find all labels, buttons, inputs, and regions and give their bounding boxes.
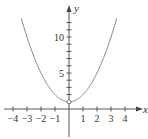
x-tick-label: −1 — [50, 113, 61, 124]
y-tick-label: 10 — [54, 32, 64, 43]
tick-labels: −4−3−2−11234510 — [8, 32, 128, 125]
y-axis-arrow-icon — [67, 5, 72, 12]
x-tick-label: −2 — [36, 113, 47, 124]
x-tick-label: −3 — [22, 113, 33, 124]
x-tick-label: 4 — [123, 113, 128, 124]
x-axis-arrow-icon — [136, 107, 143, 112]
y-axis-label: y — [73, 2, 79, 14]
x-axis-label: x — [142, 103, 148, 115]
open-circle-vertex — [67, 100, 71, 104]
x-tick-label: 2 — [95, 113, 100, 124]
x-tick-label: 1 — [81, 113, 86, 124]
x-tick-label: 3 — [109, 113, 114, 124]
parabola-chart: −4−3−2−11234510 x y — [0, 0, 148, 139]
x-tick-label: −4 — [8, 113, 19, 124]
y-tick-label: 5 — [59, 68, 64, 79]
